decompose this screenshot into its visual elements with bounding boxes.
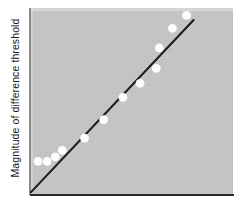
panel-top-highlight: [31, 8, 233, 11]
panel-left-highlight: [31, 8, 33, 194]
x-axis-line: [30, 194, 234, 196]
y-axis-label-area: Magnitude of difference threshold: [0, 0, 30, 196]
plot-area: [31, 8, 233, 194]
chart-figure: Magnitude of difference threshold: [0, 0, 239, 204]
y-axis-line: [29, 8, 31, 195]
y-axis-label: Magnitude of difference threshold: [10, 19, 21, 178]
panel-texture: [31, 8, 233, 194]
